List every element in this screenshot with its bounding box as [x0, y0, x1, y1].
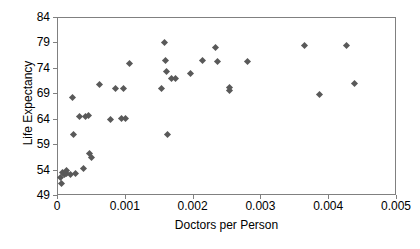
- data-point: [315, 91, 322, 98]
- x-axis-tick-mark: [57, 195, 58, 199]
- y-axis-tick-mark: [53, 144, 57, 145]
- data-point: [214, 58, 221, 65]
- data-point: [244, 58, 251, 65]
- x-axis-tick-label: 0.001: [95, 199, 155, 213]
- data-point: [162, 57, 169, 64]
- data-point: [351, 80, 358, 87]
- y-axis-tick-mark: [53, 119, 57, 120]
- x-axis-tick-label: 0: [27, 199, 87, 213]
- x-axis-tick-label: 0.004: [298, 199, 358, 213]
- x-axis-tick-label: 0.005: [366, 199, 420, 213]
- data-point: [212, 44, 219, 51]
- data-point: [199, 57, 206, 64]
- y-axis-tick-mark: [53, 42, 57, 43]
- data-point: [164, 131, 171, 138]
- data-point: [301, 42, 308, 49]
- data-point: [107, 116, 114, 123]
- data-point: [70, 131, 77, 138]
- scatter-chart: 8479746964595449 00.0010.0020.0030.0040.…: [0, 0, 420, 249]
- data-point: [88, 154, 95, 161]
- x-axis-tick-mark: [328, 195, 329, 199]
- data-point: [161, 39, 168, 46]
- data-point: [122, 115, 129, 122]
- data-point: [72, 170, 79, 177]
- x-axis-tick-mark: [125, 195, 126, 199]
- x-axis-title: Doctors per Person: [57, 218, 396, 232]
- data-point: [120, 85, 127, 92]
- y-axis-tick-mark: [53, 93, 57, 94]
- x-axis-tick-label: 0.002: [163, 199, 223, 213]
- data-point: [158, 85, 165, 92]
- data-point: [126, 60, 133, 67]
- y-axis-tick-mark: [53, 68, 57, 69]
- data-point: [69, 94, 76, 101]
- y-axis-tick-mark: [53, 17, 57, 18]
- y-axis-tick-label: 84: [20, 11, 50, 23]
- data-point: [80, 164, 87, 171]
- data-point: [187, 70, 194, 77]
- x-axis-tick-mark: [396, 195, 397, 199]
- x-axis-tick-label: 0.003: [230, 199, 290, 213]
- x-axis-tick-mark: [260, 195, 261, 199]
- y-axis-tick-mark: [53, 170, 57, 171]
- data-point: [96, 81, 103, 88]
- y-axis-title: Life Expectancy: [21, 28, 35, 178]
- data-point: [343, 42, 350, 49]
- plot-area: [57, 17, 396, 195]
- data-point: [172, 74, 179, 81]
- data-point: [163, 68, 170, 75]
- data-point: [112, 85, 119, 92]
- data-point: [58, 180, 65, 187]
- x-axis-tick-mark: [193, 195, 194, 199]
